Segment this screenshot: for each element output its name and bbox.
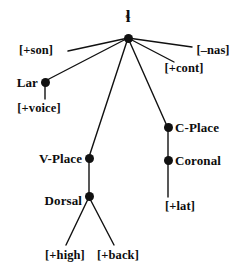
feature-geometry-diagram: ɬ Lar V-Place Dorsal C-Place Coronal [+s… <box>0 0 245 272</box>
node-dot-v-place <box>85 154 94 163</box>
tree-edge-layer <box>0 0 245 272</box>
root-segment-symbol: ɬ <box>126 8 131 25</box>
feature-label-lat: [+lat] <box>165 200 195 213</box>
feature-label-son: [+son] <box>19 44 53 57</box>
feature-label-nas: [–nas] <box>196 44 229 57</box>
node-dot-coronal <box>164 156 173 165</box>
node-dot-laryngeal <box>41 78 50 87</box>
node-label-c-place: C-Place <box>175 121 219 134</box>
node-label-dorsal: Dorsal <box>45 194 82 207</box>
feature-label-cont: [+cont] <box>164 62 203 75</box>
node-label-laryngeal: Lar <box>17 76 38 89</box>
node-dot-root <box>124 34 133 43</box>
feature-label-voice: [+voice] <box>17 102 60 115</box>
node-dot-c-place <box>164 123 173 132</box>
node-label-v-place: V-Place <box>39 152 82 165</box>
tree-edge-root-to-cplace <box>128 38 167 126</box>
tree-edge-root-to-son <box>68 38 128 51</box>
feature-label-back: [+back] <box>97 249 139 262</box>
tree-edge-dorsal-to-back <box>89 197 114 245</box>
node-dot-dorsal <box>85 192 94 201</box>
node-label-coronal: Coronal <box>175 154 221 167</box>
feature-label-high: [+high] <box>45 249 85 262</box>
